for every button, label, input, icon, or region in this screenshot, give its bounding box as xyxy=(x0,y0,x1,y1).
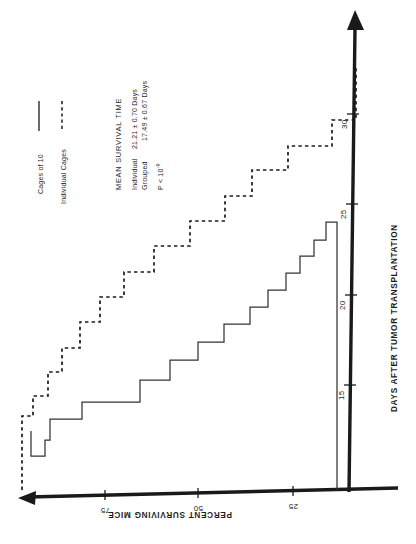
legend-label-individual-cages: Individual Cages xyxy=(59,149,69,204)
annotation-grouped-label: Grouped xyxy=(141,161,148,190)
y-tick-label-75: 75 xyxy=(101,504,111,516)
mean-survival-annotation: MEAN SURVIVAL TIME Individual 21.21 ± 0.… xyxy=(114,81,166,190)
y-axis-title: PERCENT SURVIVING MICE xyxy=(108,508,232,520)
annotation-grouped-value: 17.49 ± 0.67 Days xyxy=(141,81,148,141)
annotation-individual-label: Individual xyxy=(131,158,138,190)
x-tick-label-20: 20 xyxy=(337,301,349,311)
annotation-individual-row: Individual 21.21 ± 0.70 Days xyxy=(130,81,140,190)
x-tick-label-25: 25 xyxy=(338,210,350,220)
y-tick-label-25: 25 xyxy=(289,500,299,512)
annotation-pvalue-exponent: -9 xyxy=(155,163,161,168)
series-individual-cages xyxy=(22,66,356,490)
x-tick-label-15: 15 xyxy=(336,391,348,401)
legend-label-cages-of-10: Cages of 10 xyxy=(36,154,46,194)
legend-keys xyxy=(39,101,62,131)
annotation-individual-value: 21.21 ± 0.70 Days xyxy=(131,89,138,149)
x-tick-label-30: 30 xyxy=(339,120,351,130)
x-axis-title: DAYS AFTER TUMOR TRANSPLANTATION xyxy=(389,224,401,412)
y-axis xyxy=(18,486,398,505)
y-tick-label-50: 50 xyxy=(194,502,204,514)
annotation-pvalue-prefix: P < 10 xyxy=(157,168,164,190)
x-axis xyxy=(344,10,364,492)
chart-canvas xyxy=(0,0,416,544)
series-cages-of-10 xyxy=(31,222,337,490)
annotation-title: MEAN SURVIVAL TIME xyxy=(114,81,125,190)
figure-root: DAYS AFTER TUMOR TRANSPLANTATION 15 20 2… xyxy=(0,0,416,544)
annotation-pvalue: P < 10-9 xyxy=(155,81,166,190)
annotation-grouped-row: Grouped 17.49 ± 0.67 Days xyxy=(140,81,150,190)
